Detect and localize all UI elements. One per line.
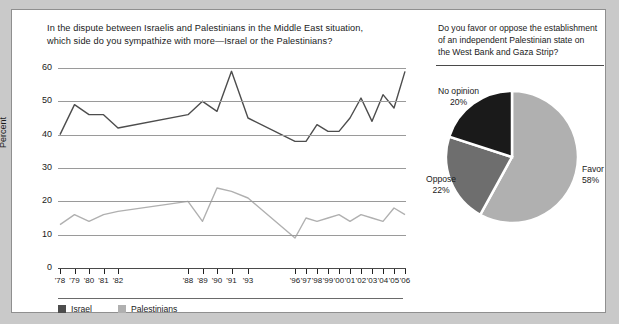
y-axis-tick-label: 40 (30, 129, 52, 139)
x-axis-tick (339, 269, 340, 274)
x-axis-tick-label: '82 (113, 276, 123, 285)
x-axis-tick-label: '00 (334, 276, 344, 285)
x-axis-tick-label: '01 (345, 276, 355, 285)
x-axis-tick-label: '81 (98, 276, 108, 285)
line-chart-plot-area (58, 68, 406, 268)
y-axis-tick-label: 30 (30, 162, 52, 172)
x-axis-tick (295, 269, 296, 274)
pie-chart-title-line-3: the West Bank and Gaza Strip? (438, 46, 604, 58)
y-axis-title: Percent (0, 117, 8, 148)
x-axis-tick (394, 269, 395, 274)
legend-swatch-icon (118, 305, 126, 313)
pie-label-name: Oppose (426, 174, 456, 184)
x-axis-tick (203, 269, 204, 274)
legend-swatch-icon (58, 305, 66, 313)
x-axis-tick-label: '80 (84, 276, 94, 285)
x-axis-tick (118, 269, 119, 274)
line-chart-title-line-2: which side do you sympathize with more—I… (47, 35, 407, 48)
legend-divider (58, 298, 403, 299)
legend-label: Palestinians (131, 304, 177, 314)
y-axis-tick-label: 10 (30, 229, 52, 239)
y-axis-tick-label: 50 (30, 95, 52, 105)
x-axis-tick-label: '89 (197, 276, 207, 285)
figure-card: In the dispute between Israelis and Pale… (11, 9, 606, 313)
line-chart-title: In the dispute between Israelis and Pale… (47, 22, 407, 47)
x-axis-tick (361, 269, 362, 274)
pie-chart-title-line-1: Do you favor or oppose the establishment (438, 22, 604, 34)
gridline (58, 135, 406, 136)
line-series-palestinians (60, 188, 405, 238)
y-axis-tick-label: 0 (30, 262, 52, 272)
pie-label-oppose: Oppose22% (426, 174, 456, 196)
x-axis-tick (248, 269, 249, 274)
y-axis-tick-labels: 0102030405060 (26, 68, 52, 268)
x-axis-tick (350, 269, 351, 274)
line-chart-legend: IsraelPalestinians (58, 302, 177, 316)
gridline (58, 68, 406, 69)
pie-label-name: No opinion (438, 86, 479, 96)
legend-label: Israel (71, 304, 92, 314)
x-axis-tick (317, 269, 318, 274)
x-axis-tick (383, 269, 384, 274)
pie-label-value: 20% (438, 97, 479, 108)
x-axis-tick (89, 269, 90, 274)
gridline (58, 235, 406, 236)
pie-label-favor: Favor58% (582, 164, 604, 186)
x-axis-tick (232, 269, 233, 274)
line-chart-panel: In the dispute between Israelis and Pale… (12, 10, 422, 312)
pie-chart-panel: Do you favor or oppose the establishment… (424, 10, 607, 312)
x-axis-tick (372, 269, 373, 274)
x-axis-tick-label: '78 (55, 276, 65, 285)
x-axis-tick-label: '88 (183, 276, 193, 285)
x-axis-tick (188, 269, 189, 274)
x-axis-tick (75, 269, 76, 274)
x-axis-tick-label: '05 (389, 276, 399, 285)
pie-label-value: 22% (426, 185, 456, 196)
pie-chart-title-line-2: of an independent Palestinian state on (438, 34, 604, 46)
line-chart-title-line-1: In the dispute between Israelis and Pale… (47, 22, 407, 35)
x-axis-tick-label: '03 (367, 276, 377, 285)
x-axis-tick-label: '91 (226, 276, 236, 285)
x-axis-tick-labels: '78'79'80'81'82'88'89'90'91'93'96'97'98'… (58, 276, 406, 288)
x-axis-tick-label: '79 (69, 276, 79, 285)
x-axis-tick (104, 269, 105, 274)
pie-title-divider (436, 65, 604, 66)
x-axis-tick-label: '93 (243, 276, 253, 285)
x-axis-tick-label: '02 (356, 276, 366, 285)
gridline (58, 168, 406, 169)
pie-label-value: 58% (582, 175, 604, 186)
x-axis-tick-label: '96 (290, 276, 300, 285)
line-series-israel (60, 71, 405, 141)
x-axis-tick (405, 269, 406, 274)
y-axis-tick-label: 60 (30, 62, 52, 72)
y-axis-tick-label: 20 (30, 195, 52, 205)
x-axis-tick-label: '90 (212, 276, 222, 285)
gridline (58, 101, 406, 102)
x-axis-tick (60, 269, 61, 274)
x-axis-tick (306, 269, 307, 274)
pie-chart-title: Do you favor or oppose the establishment… (438, 22, 604, 58)
pie-label-no-opinion: No opinion20% (438, 86, 479, 108)
page-background: In the dispute between Israelis and Pale… (0, 0, 619, 324)
x-axis-tick-label: '99 (323, 276, 333, 285)
x-axis-tick-label: '04 (378, 276, 388, 285)
pie-label-name: Favor (582, 164, 604, 174)
pie-chart-area: Favor58%Oppose22%No opinion20% (424, 72, 607, 252)
x-axis-tick (328, 269, 329, 274)
legend-item-palestinians: Palestinians (118, 304, 177, 314)
x-axis-tick (217, 269, 218, 274)
x-axis-tick-label: '97 (301, 276, 311, 285)
legend-item-israel: Israel (58, 304, 92, 314)
gridline (58, 201, 406, 202)
x-axis-ticks (58, 269, 406, 275)
x-axis-tick-label: '06 (400, 276, 410, 285)
x-axis-tick-label: '98 (312, 276, 322, 285)
